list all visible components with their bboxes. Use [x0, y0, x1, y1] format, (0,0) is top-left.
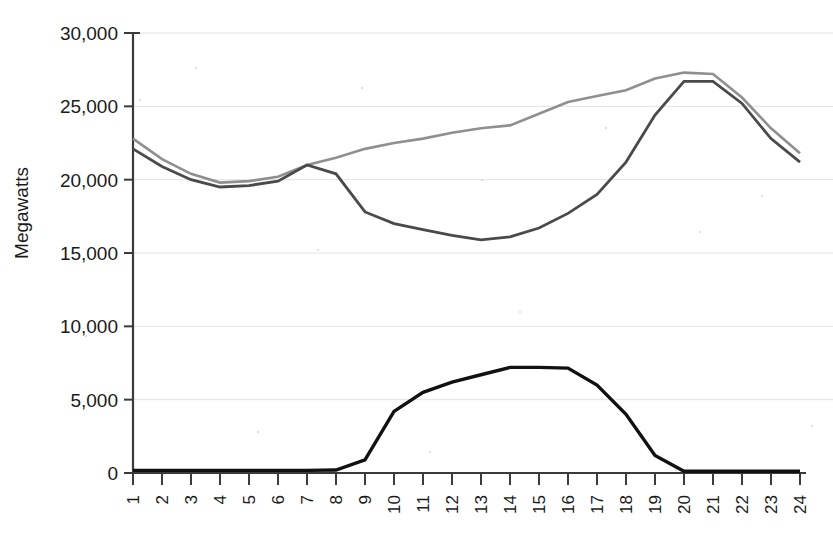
- y-tick-label: 20,000: [60, 170, 118, 191]
- gridlines: [133, 33, 833, 400]
- y-tick-label: 5,000: [70, 390, 118, 411]
- scan-speck: [519, 311, 521, 313]
- x-tick-label: 10: [385, 495, 404, 514]
- scan-speck: [361, 87, 363, 89]
- y-axis-title: Megawatts: [11, 167, 32, 259]
- scan-speck: [675, 469, 677, 471]
- x-tick-label: 13: [472, 495, 491, 514]
- scan-speck: [85, 335, 87, 337]
- chart-container: 05,00010,00015,00020,00025,00030,000 123…: [0, 0, 833, 540]
- chart-title: [0, 0, 833, 3]
- scan-speck: [605, 127, 607, 129]
- scan-speck: [139, 99, 141, 101]
- x-tick-label: 5: [240, 495, 259, 504]
- scan-speck: [317, 249, 319, 251]
- x-tick-label: 21: [704, 495, 723, 514]
- scan-speck: [699, 231, 701, 233]
- y-tick-label: 25,000: [60, 96, 118, 117]
- x-tick-label: 11: [414, 495, 433, 513]
- x-tick-label: 14: [501, 495, 520, 514]
- y-tick-label: 10,000: [60, 316, 118, 337]
- series-line-total-load: [133, 73, 800, 183]
- scan-speck: [257, 431, 259, 433]
- y-tick-label: 0: [107, 463, 118, 484]
- x-tick-label: 24: [791, 495, 810, 514]
- scan-speck: [761, 195, 763, 197]
- x-tick-label: 19: [646, 495, 665, 514]
- x-tick-label: 1: [124, 495, 143, 504]
- y-tick-label: 30,000: [60, 23, 118, 44]
- series-line-net-load: [133, 81, 800, 239]
- x-tick-label: 22: [733, 495, 752, 514]
- x-tick-label: 4: [211, 495, 230, 504]
- x-axis: 123456789101112131415161718192021222324: [124, 473, 810, 514]
- x-tick-label: 18: [617, 495, 636, 514]
- scan-artifacts: [85, 67, 813, 471]
- y-tick-label: 15,000: [60, 243, 118, 264]
- x-tick-label: 12: [443, 495, 462, 514]
- scan-speck: [195, 67, 197, 69]
- x-tick-label: 9: [356, 495, 375, 504]
- x-tick-label: 7: [298, 495, 317, 504]
- series-line-solar-generation: [133, 367, 800, 471]
- x-tick-label: 23: [762, 495, 781, 514]
- x-tick-label: 16: [559, 495, 578, 514]
- scan-speck: [429, 451, 431, 453]
- x-tick-label: 2: [153, 495, 172, 504]
- x-tick-label: 20: [675, 495, 694, 514]
- scan-speck: [811, 425, 813, 427]
- x-tick-label: 6: [269, 495, 288, 504]
- x-tick-label: 8: [327, 495, 346, 504]
- series-lines: [133, 73, 800, 472]
- line-chart: 05,00010,00015,00020,00025,00030,000 123…: [0, 0, 833, 540]
- x-tick-label: 17: [588, 495, 607, 514]
- x-tick-label: 15: [530, 495, 549, 514]
- x-tick-label: 3: [182, 495, 201, 504]
- y-axis-title-text: Megawatts: [11, 167, 32, 259]
- scan-speck: [481, 179, 483, 181]
